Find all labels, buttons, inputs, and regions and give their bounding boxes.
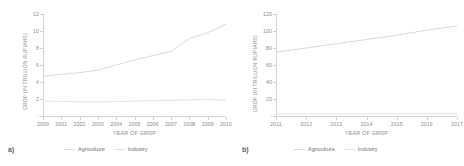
x-tick-mark [367,117,368,120]
legend-label-industry: Industry [128,146,148,152]
x-tick-mark [80,117,81,120]
series-line-industry [43,99,226,102]
legend-swatch-industry [344,149,355,150]
legend-label-agriculture: Agriculture [78,146,105,152]
y-tick-label: 10 [21,28,39,34]
x-tick-label: 2013 [326,121,346,127]
x-tick-label: 2011 [266,121,286,127]
x-tick-mark [153,117,154,120]
legend-swatch-agriculture [64,149,75,150]
y-tick-label: 120 [254,11,272,17]
y-tick-label: 60 [254,62,272,68]
x-tick-label: 2009 [198,121,218,127]
y-tick-label: 2 [21,96,39,102]
legend-swatch-agriculture [294,149,305,150]
x-tick-label: 2005 [125,121,145,127]
legend-label-industry: Industry [358,146,378,152]
panel-b-legend: Agriculture Industry [294,146,378,152]
panel-b: GRDP (IN TRILLION RUPIAHS) 1201008060402… [232,0,464,166]
x-tick-label: 2003 [88,121,108,127]
legend-entry-industry[interactable]: Industry [114,146,148,152]
x-tick-label: 2000 [33,121,53,127]
legend-label-agriculture: Agriculture [308,146,335,152]
x-tick-mark [427,117,428,120]
x-tick-mark [61,117,62,120]
x-tick-mark [457,117,458,120]
x-tick-mark [276,117,277,120]
legend-entry-agriculture[interactable]: Agriculture [64,146,105,152]
series-line-agriculture [276,26,457,52]
x-tick-label: 2014 [357,121,377,127]
panel-b-tag: b) [242,146,249,153]
x-tick-mark [208,117,209,120]
y-tick-label: 80 [254,45,272,51]
x-tick-label: 2002 [70,121,90,127]
x-tick-label: 2012 [296,121,316,127]
x-tick-mark [135,117,136,120]
legend-entry-industry[interactable]: Industry [344,146,378,152]
y-tick-label: 12 [21,11,39,17]
panel-b-x-axis-title: YEAR OF GRDP [276,130,457,136]
legend-swatch-industry [114,149,125,150]
panel-a: GRDP (IN TRILLION RUPIAHS) 12108642- 200… [0,0,232,166]
y-tick-label: 8 [21,45,39,51]
x-tick-mark [171,117,172,120]
y-tick-label: 6 [21,62,39,68]
x-tick-mark [306,117,307,120]
y-tick-label: - [21,113,39,119]
x-tick-label: 2008 [179,121,199,127]
figure-two-panel-line-charts: GRDP (IN TRILLION RUPIAHS) 12108642- 200… [0,0,464,166]
panel-b-series-group [276,14,457,116]
x-tick-mark [43,117,44,120]
x-tick-label: 2015 [387,121,407,127]
x-tick-label: 2017 [447,121,464,127]
panel-a-series-group [43,14,226,116]
x-tick-label: 2007 [161,121,181,127]
legend-entry-agriculture[interactable]: Agriculture [294,146,335,152]
x-tick-mark [397,117,398,120]
x-tick-label: 2001 [51,121,71,127]
y-tick-label: - [254,113,272,119]
panel-a-tag: a) [8,146,14,153]
x-tick-label: 2016 [417,121,437,127]
panel-a-legend: Agriculture Industry [64,146,148,152]
x-tick-mark [226,117,227,120]
x-tick-mark [98,117,99,120]
y-tick-label: 40 [254,79,272,85]
y-tick-label: 100 [254,28,272,34]
y-tick-label: 20 [254,96,272,102]
panel-a-x-axis-title: YEAR OF GRDP [43,130,226,136]
x-tick-mark [116,117,117,120]
x-tick-label: 2006 [143,121,163,127]
y-tick-label: 4 [21,79,39,85]
x-tick-label: 2004 [106,121,126,127]
x-tick-mark [189,117,190,120]
x-tick-mark [336,117,337,120]
series-line-agriculture [43,24,226,76]
